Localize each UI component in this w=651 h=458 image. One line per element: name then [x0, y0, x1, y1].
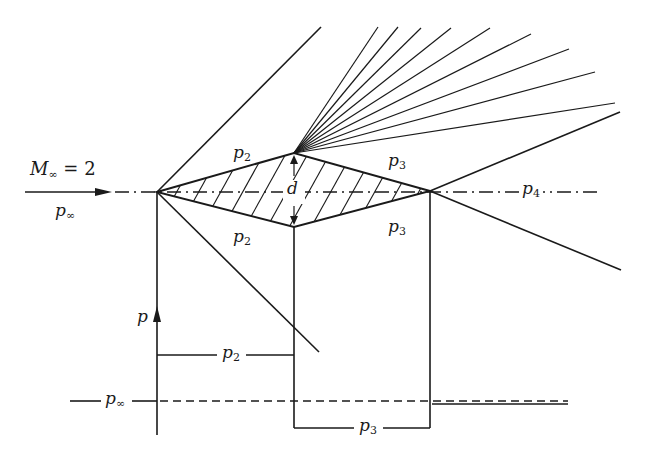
- p3-lower-label: p3: [388, 218, 406, 237]
- pressure-distribution-plot: [70, 355, 568, 428]
- p-inf-flow-label: p∞: [55, 202, 75, 221]
- p3-plot-label: p3: [359, 417, 377, 436]
- thickness-label: d: [287, 180, 298, 197]
- diamond-airfoil-diagram: M∞ = 2 p∞ p2 p2 p3 p3 p4 d p p2 p∞ p3: [0, 0, 651, 458]
- mach-label: M∞ = 2: [30, 160, 96, 180]
- p2-plot-label: p2: [222, 344, 240, 363]
- oblique-shock-trailing-lower: [430, 191, 621, 270]
- p-inf-plot-label: p∞: [105, 390, 125, 409]
- p-axis-label: p: [137, 308, 148, 325]
- p3-upper-label: p3: [388, 152, 406, 171]
- p2-lower-label: p2: [233, 228, 251, 247]
- oblique-shock-leading-upper: [157, 27, 321, 192]
- p-axis-arrow: [153, 306, 161, 322]
- p4-label: p4: [519, 180, 543, 199]
- diagram-svg: [0, 0, 651, 458]
- p2-upper-label: p2: [233, 144, 251, 163]
- freestream-arrow: [25, 188, 112, 196]
